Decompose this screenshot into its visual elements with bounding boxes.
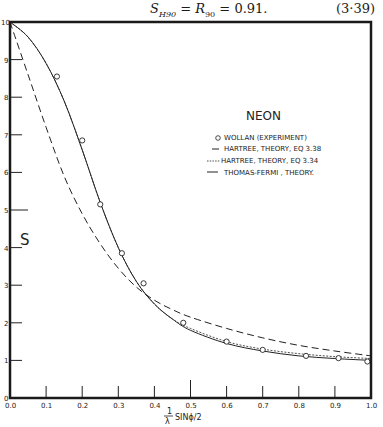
data-point-marker [54, 74, 59, 79]
legend-item-hartree-338: HARTREE, THEORY, EQ 3.38 [224, 145, 321, 153]
y-tick-label: 5 [4, 207, 8, 215]
y-tick-label: 4 [4, 245, 9, 253]
solid-curve [10, 22, 371, 360]
y-tick-label: 1 [4, 357, 8, 365]
x-tick-label: 0.1 [41, 402, 52, 410]
x-axis-label-numerator: 1 [167, 407, 172, 416]
data-point-marker [119, 251, 124, 256]
axis-ticks [10, 60, 335, 398]
data-point-marker [98, 202, 103, 207]
x-axis-label-text: SINϕ/2 [175, 413, 201, 422]
data-point-marker [336, 356, 341, 361]
data-point-marker [260, 347, 265, 352]
y-tick-label: 0 [4, 395, 8, 403]
data-point-marker [303, 353, 308, 358]
y-tick-label: 9 [4, 57, 8, 65]
data-point-marker [181, 320, 186, 325]
data-points [54, 74, 370, 364]
y-tick-labels: 012345678910 [1, 19, 10, 403]
x-tick-labels: 0.00.10.20.30.40.50.60.70.80.91.0 [5, 402, 377, 410]
y-tick-label: 10 [1, 19, 10, 27]
x-tick-label: 0.9 [330, 402, 341, 410]
data-point-marker [365, 359, 370, 364]
legend-title: NEON [246, 109, 281, 123]
chart: 0.00.10.20.30.40.50.60.70.80.91.0 012345… [0, 0, 383, 427]
legend-circle-marker [216, 136, 221, 141]
y-tick-label: 6 [4, 169, 9, 177]
legend-item-hartree-334: HARTREE, THEORY, EQ 3.34 [221, 157, 319, 165]
plot-curves [10, 22, 371, 360]
x-axis-label-denominator: λ [165, 417, 170, 426]
x-tick-label: 0.8 [294, 402, 305, 410]
y-tick-label: 2 [4, 320, 8, 328]
x-tick-label: 0.5 [186, 402, 197, 410]
y-tick-label: 3 [4, 282, 8, 290]
data-point-marker [141, 281, 146, 286]
short-dashed-curve [10, 22, 371, 359]
x-tick-label: 0.3 [113, 402, 124, 410]
data-point-marker [80, 138, 85, 143]
y-tick-label: 7 [4, 132, 8, 140]
data-point-marker [224, 339, 229, 344]
x-tick-label: 1.0 [366, 402, 377, 410]
x-tick-label: 0.2 [77, 402, 88, 410]
x-tick-label: 0.7 [258, 402, 269, 410]
legend-item-wollan: WOLLAN (EXPERIMENT) [224, 134, 307, 142]
legend: NEON WOLLAN (EXPERIMENT) HARTREE, THEORY… [207, 109, 321, 177]
x-tick-label: 0.4 [149, 402, 161, 410]
plot-frame [10, 22, 371, 398]
long-dashed-curve [10, 22, 371, 356]
legend-item-thomas-fermi: THOMAS-FERMI , THEORY. [223, 169, 314, 177]
y-axis-label: S [20, 231, 30, 249]
x-tick-label: 0.0 [5, 402, 16, 410]
y-tick-label: 8 [4, 94, 8, 102]
x-tick-label: 0.6 [222, 402, 234, 410]
